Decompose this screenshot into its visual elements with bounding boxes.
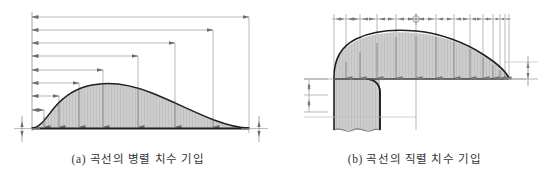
- center-mark-icon: [410, 13, 422, 25]
- figure-a-panel: (a) 곡선의 병렬 치수 기입: [0, 0, 276, 179]
- figure-b-caption: (b) 곡선의 직렬 치수 기입: [276, 150, 553, 166]
- figure-a-drawing: [0, 0, 276, 150]
- figure-b-panel: (b) 곡선의 직렬 치수 기입: [276, 0, 553, 179]
- figure-board: (a) 곡선의 병렬 치수 기입: [0, 0, 553, 179]
- left-vertical-chain-dimension: [304, 79, 328, 112]
- figure-b-drawing: [276, 0, 553, 150]
- inner-contour: [366, 79, 509, 130]
- figure-a-caption: (a) 곡선의 병렬 치수 기입: [0, 150, 276, 166]
- bend-leg-fill: [334, 77, 380, 130]
